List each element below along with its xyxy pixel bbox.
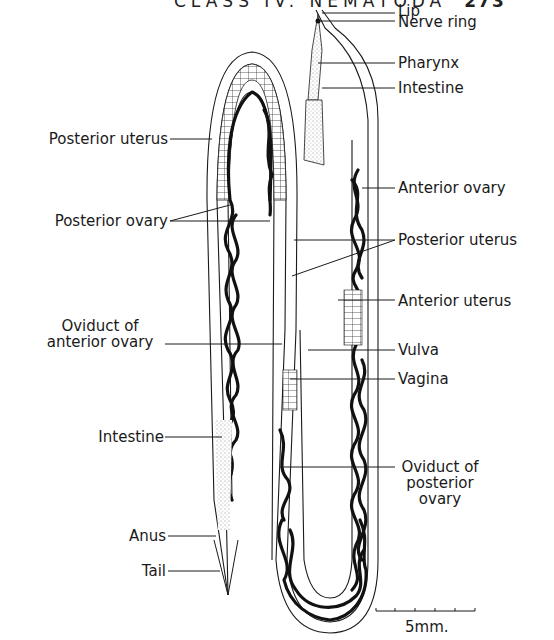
label-posterior-uterus-left: Posterior uterus: [0, 131, 168, 147]
label-line: Oviduct of: [398, 459, 482, 475]
anterior-uterus-cells: [344, 290, 362, 345]
label-anus: Anus: [0, 528, 166, 544]
label-line: anterior ovary: [34, 334, 166, 350]
label-vagina: Vagina: [398, 371, 449, 387]
label-tail: Tail: [0, 563, 166, 579]
label-posterior-ovary: Posterior ovary: [0, 213, 168, 229]
scale-bar-label: 5mm.: [405, 618, 449, 636]
label-oviduct-posterior-ovary: Oviduct of posterior ovary: [398, 459, 482, 507]
label-line: posterior: [398, 475, 482, 491]
label-line: Oviduct of: [34, 318, 166, 334]
ovary-coils: [225, 92, 366, 620]
label-anterior-ovary: Anterior ovary: [398, 180, 506, 196]
label-oviduct-anterior-ovary: Oviduct of anterior ovary: [34, 318, 166, 350]
pharynx: [308, 14, 322, 100]
label-vulva: Vulva: [398, 342, 439, 358]
tail-tip: [214, 540, 238, 595]
vagina-cells: [283, 370, 297, 410]
label-line: ovary: [398, 491, 482, 507]
label-anterior-uterus: Anterior uterus: [398, 293, 511, 309]
label-posterior-uterus-right: Posterior uterus: [398, 232, 517, 248]
intestine-anterior: [304, 100, 324, 165]
label-pharynx: Pharynx: [398, 55, 459, 71]
label-intestine-posterior: Intestine: [0, 429, 164, 445]
label-intestine-anterior: Intestine: [398, 80, 464, 96]
label-nerve-ring: Nerve ring: [398, 14, 477, 30]
scale-bar: [376, 608, 475, 611]
